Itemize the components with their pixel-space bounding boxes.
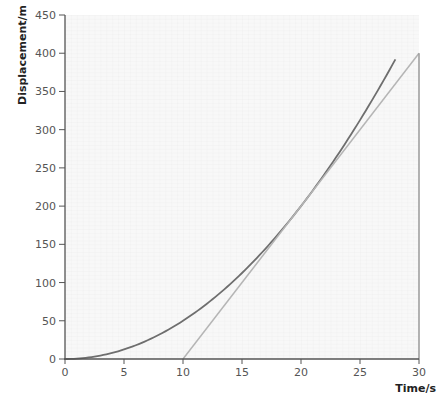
x-tick-label: 25	[353, 366, 367, 379]
y-tick-label: 250	[35, 162, 56, 175]
y-tick-label: 200	[35, 200, 56, 213]
grid	[65, 15, 419, 359]
x-tick-label: 20	[294, 366, 308, 379]
x-tick-label: 5	[121, 366, 128, 379]
y-tick-label: 150	[35, 238, 56, 251]
x-tick-label: 10	[176, 366, 190, 379]
x-axis-title: Time/s	[395, 382, 436, 395]
displacement-time-chart: 051015202530050100150200250300350400450 …	[0, 0, 438, 403]
x-tick-label: 0	[62, 366, 69, 379]
y-axis-title: Displacement/m	[16, 5, 29, 105]
y-tick-label: 450	[35, 9, 56, 22]
y-tick-label: 0	[49, 353, 56, 366]
y-tick-label: 300	[35, 124, 56, 137]
y-tick-label: 350	[35, 85, 56, 98]
y-tick-label: 100	[35, 277, 56, 290]
y-tick-label: 400	[35, 47, 56, 60]
x-tick-label: 15	[235, 366, 249, 379]
y-tick-label: 50	[42, 315, 56, 328]
x-tick-label: 30	[412, 366, 426, 379]
